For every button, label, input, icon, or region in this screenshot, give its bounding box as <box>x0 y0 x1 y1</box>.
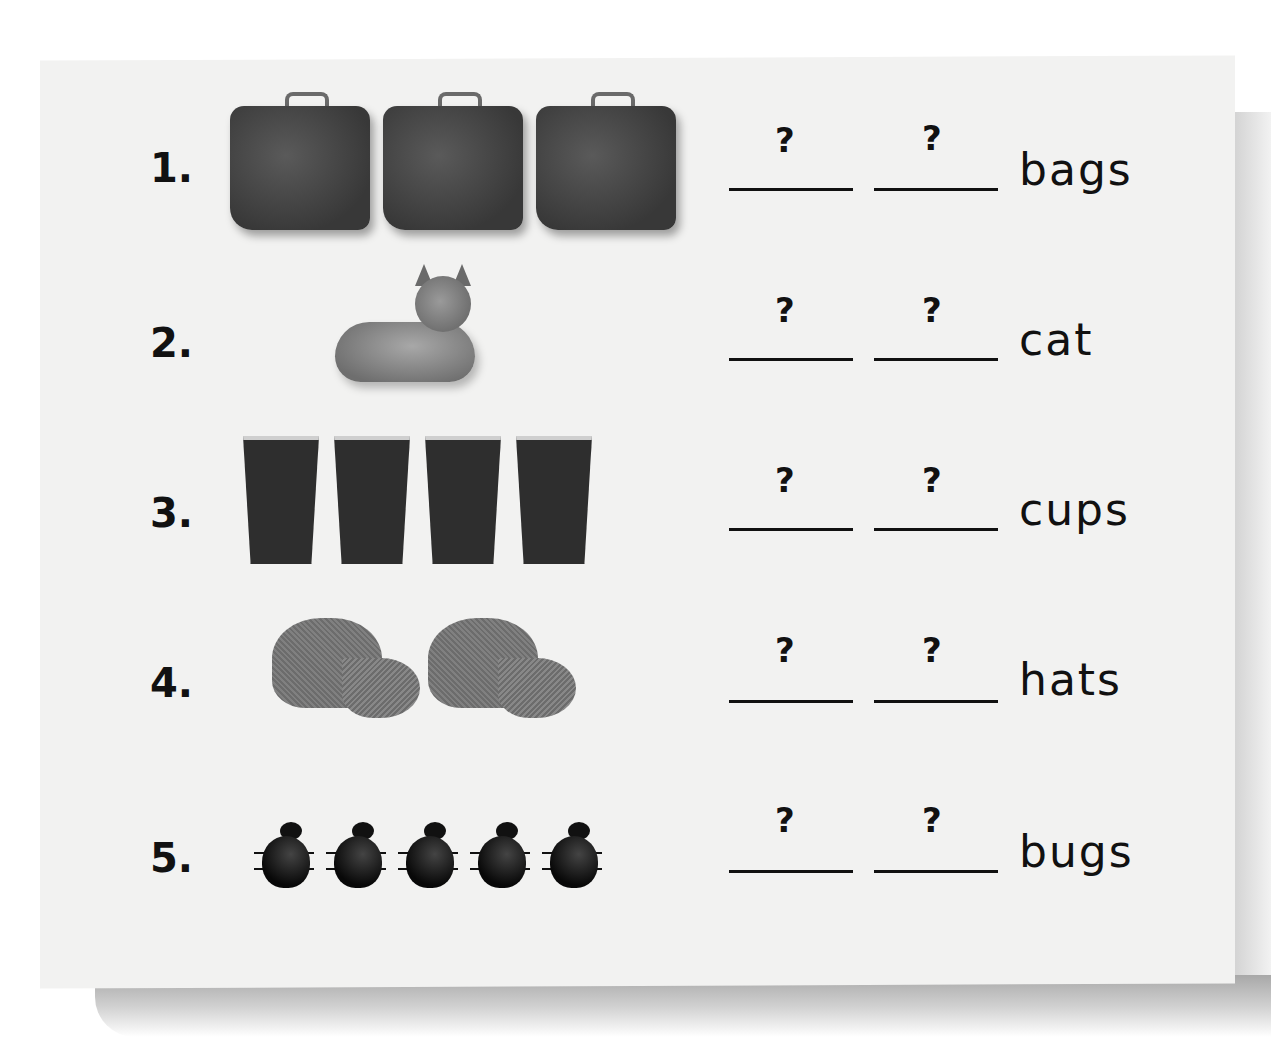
row-number: 5. <box>150 835 193 881</box>
row-word: hats <box>1019 654 1122 705</box>
question-mark: ? <box>775 800 795 840</box>
answer-blank[interactable] <box>729 528 853 531</box>
answer-blank[interactable] <box>874 358 998 361</box>
cup-icon <box>516 436 592 564</box>
answer-blank[interactable] <box>729 700 853 703</box>
suitcase-pictures <box>230 92 689 232</box>
cup-icon <box>243 436 319 564</box>
worksheet-row-3: 3. ? ? cups <box>0 420 1271 590</box>
bug-icon <box>402 812 462 888</box>
suitcase-icon <box>383 92 526 232</box>
question-mark: ? <box>775 120 795 160</box>
worksheet-row-1: 1. ? ? bags <box>0 80 1271 250</box>
bug-icon <box>258 812 318 888</box>
cup-icon <box>334 436 410 564</box>
bug-icon <box>546 812 606 888</box>
bug-icon <box>474 812 534 888</box>
worksheet-row-4: 4. ? ? hats <box>0 590 1271 760</box>
cup-icon <box>425 436 501 564</box>
question-mark: ? <box>775 630 795 670</box>
hat-pictures <box>272 618 584 718</box>
row-word: cups <box>1019 484 1130 535</box>
row-number: 2. <box>150 320 193 366</box>
cat-icon <box>335 262 475 402</box>
answer-blank[interactable] <box>729 188 853 191</box>
cat-pictures <box>335 262 475 402</box>
answer-blank[interactable] <box>874 188 998 191</box>
bug-icon <box>330 812 390 888</box>
hat-icon <box>428 618 576 718</box>
question-mark: ? <box>922 630 942 670</box>
answer-blank[interactable] <box>874 870 998 873</box>
hat-icon <box>272 618 420 718</box>
answer-blank[interactable] <box>729 870 853 873</box>
suitcase-icon <box>536 92 679 232</box>
question-mark: ? <box>775 460 795 500</box>
question-mark: ? <box>922 118 942 158</box>
worksheet-row-5: 5. ? ? bugs <box>0 760 1271 930</box>
question-mark: ? <box>775 290 795 330</box>
row-word: cat <box>1019 314 1093 365</box>
row-word: bags <box>1019 144 1133 195</box>
row-number: 1. <box>150 145 193 191</box>
cup-pictures <box>243 436 607 564</box>
worksheet-row-2: 2. ? ? cat <box>0 250 1271 420</box>
row-number: 4. <box>150 660 193 706</box>
answer-blank[interactable] <box>874 700 998 703</box>
answer-blank[interactable] <box>729 358 853 361</box>
question-mark: ? <box>922 460 942 500</box>
question-mark: ? <box>922 800 942 840</box>
answer-blank[interactable] <box>874 528 998 531</box>
row-word: bugs <box>1019 826 1134 877</box>
question-mark: ? <box>922 290 942 330</box>
row-number: 3. <box>150 490 193 536</box>
bug-pictures <box>258 812 618 888</box>
suitcase-icon <box>230 92 373 232</box>
